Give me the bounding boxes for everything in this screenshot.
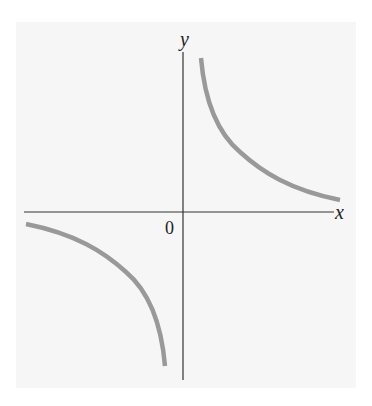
x-axis-label: x bbox=[335, 202, 344, 222]
curve-branch-positive bbox=[201, 58, 340, 200]
origin-label: 0 bbox=[165, 219, 174, 237]
hyperbola-plot bbox=[0, 0, 372, 406]
curve-branch-negative bbox=[26, 224, 165, 366]
y-axis-label: y bbox=[180, 29, 189, 49]
